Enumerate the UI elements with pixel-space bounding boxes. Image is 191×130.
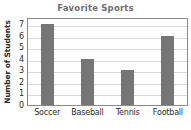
y-axis-tick-label: 7: [19, 21, 24, 29]
bar-baseball[interactable]: [81, 59, 94, 105]
plot-area: [27, 18, 188, 106]
bar-slot: [68, 19, 108, 105]
chart-title: Favorite Sports: [0, 2, 191, 14]
y-axis-title-container: Number of Students: [0, 18, 14, 106]
x-axis-tick-label: Tennis: [108, 107, 148, 121]
x-axis-tick-label: Football: [148, 107, 188, 121]
y-axis-tick-label: 5: [19, 44, 24, 52]
x-axis-tick-label: Soccer: [27, 107, 67, 121]
bar-slot: [147, 19, 187, 105]
bar-series: [28, 19, 187, 105]
bar-slot: [28, 19, 68, 105]
bar-football[interactable]: [161, 36, 174, 105]
y-axis-tick-label: 0: [19, 102, 24, 110]
y-axis-tick-label: 2: [19, 79, 24, 87]
y-axis-tick-label: 1: [19, 90, 24, 98]
x-axis-tick-label: Baseball: [67, 107, 107, 121]
bar-tennis[interactable]: [121, 70, 134, 105]
y-axis-tick-labels: 01234567: [14, 18, 26, 106]
y-axis-title: Number of Students: [3, 20, 12, 104]
y-axis-tick-label: 6: [19, 33, 24, 41]
x-axis-tick-labels: SoccerBaseballTennisFootball: [27, 107, 188, 121]
y-axis-tick-label: 4: [19, 56, 24, 64]
y-axis-tick-label: 3: [19, 67, 24, 75]
bar-chart-figure: Favorite Sports Number of Students 01234…: [0, 0, 191, 130]
bar-soccer[interactable]: [41, 24, 54, 105]
bar-slot: [108, 19, 148, 105]
